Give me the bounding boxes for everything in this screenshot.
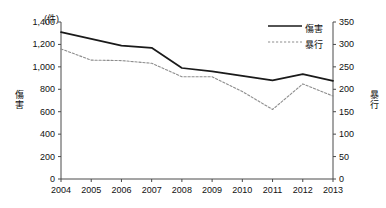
series-line-1: [61, 49, 333, 110]
plot-area: [0, 0, 386, 208]
legend-swatches: [268, 26, 302, 42]
line-chart: (件) 傷害 暴行 傷害 暴行 02004006008001,0001,2001…: [0, 0, 386, 208]
axis-lines: [58, 22, 336, 182]
series-lines: [61, 32, 333, 109]
series-line-0: [61, 32, 333, 81]
